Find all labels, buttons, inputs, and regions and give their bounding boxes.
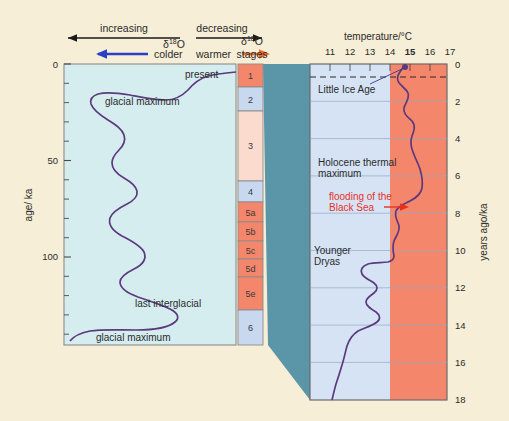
temp-tick-label-15: 15 xyxy=(405,46,416,57)
left-tick-label-50: 50 xyxy=(47,155,58,166)
ka-tick-label-18: 18 xyxy=(455,394,466,405)
stage-label: 6 xyxy=(248,323,253,333)
left-annotation-glacial-max-top: glacial maximum xyxy=(105,96,179,107)
right-annotation-holocene-2: maximum xyxy=(318,168,361,179)
left-annotation-last-interglacial: last interglacial xyxy=(135,298,201,309)
warmer-label: warmer xyxy=(195,48,232,60)
left-annotation-present: present xyxy=(185,69,219,80)
stage-label: 5a xyxy=(245,208,255,218)
stages-delta-superscript: 18 xyxy=(247,35,255,42)
right-axis-title: years ago/ka xyxy=(478,203,489,261)
ka-tick-label-14: 14 xyxy=(455,320,466,331)
temp-tick-label-13: 13 xyxy=(365,46,376,57)
stage-label: 1 xyxy=(248,71,253,81)
right-annotation-younger-dryas-2: Dryas xyxy=(314,256,340,267)
stages-label: stages xyxy=(237,48,268,60)
right-annotation-younger-dryas-1: Younger xyxy=(314,245,352,256)
right-plot-cool-region xyxy=(310,64,390,400)
stage-label: 5b xyxy=(245,227,255,237)
increasing-label: increasing xyxy=(100,22,148,34)
colder-label: colder xyxy=(154,48,183,60)
oxygen-isotope-stages-column: 1 2 3 4 5a 5b 5c 5d 5e 6 xyxy=(238,64,263,345)
delta-superscript: 18 xyxy=(169,38,177,45)
left-annotation-glacial-max-bottom: glacial maximum xyxy=(96,332,170,343)
temp-tick-label-11: 11 xyxy=(325,46,335,57)
temp-tick-label-12: 12 xyxy=(345,46,356,57)
left-tick-label-0: 0 xyxy=(53,59,58,70)
temperature-axis-title: temperature/°C xyxy=(344,31,412,42)
figure-root: increasing decreasing δ18O colder warmer… xyxy=(0,0,509,421)
right-annotation-black-sea-1: flooding of the xyxy=(329,191,392,202)
right-annotation-little-ice-age: Little Ice Age xyxy=(318,84,376,95)
ka-tick-label-16: 16 xyxy=(455,357,466,368)
decreasing-label: decreasing xyxy=(196,22,248,34)
stage-label: 5e xyxy=(245,289,255,299)
stages-delta-element: O xyxy=(255,35,263,47)
temp-tick-label-14: 14 xyxy=(385,46,396,57)
ka-tick-label-0: 0 xyxy=(455,59,460,70)
left-tick-label-100: 100 xyxy=(42,251,58,262)
stage-label: 3 xyxy=(248,141,253,151)
figure-svg: increasing decreasing δ18O colder warmer… xyxy=(0,0,509,421)
right-annotation-holocene-1: Holocene thermal xyxy=(318,157,396,168)
stage-label: 2 xyxy=(248,95,253,105)
temp-tick-label-17: 17 xyxy=(445,46,456,57)
ka-tick-label-10: 10 xyxy=(455,245,466,256)
ka-tick-label-12: 12 xyxy=(455,282,466,293)
stage-label: 5c xyxy=(246,246,256,256)
ka-tick-label-4: 4 xyxy=(455,133,460,144)
left-axis-title: age/ ka xyxy=(23,188,34,221)
stage-label: 5d xyxy=(245,264,255,274)
right-annotation-black-sea-2: Black Sea xyxy=(329,202,374,213)
ka-tick-label-8: 8 xyxy=(455,208,460,219)
stage-label: 4 xyxy=(248,187,253,197)
ka-tick-label-6: 6 xyxy=(455,170,460,181)
ka-tick-label-2: 2 xyxy=(455,96,460,107)
temp-tick-label-16: 16 xyxy=(425,46,436,57)
